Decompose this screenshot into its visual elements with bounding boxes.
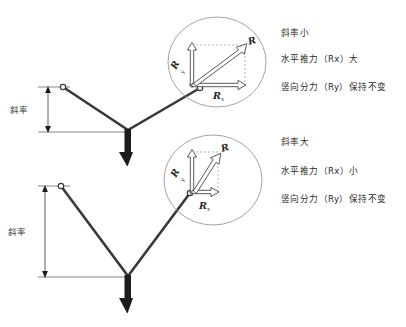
- vector-sub-rx-steep: x: [207, 206, 211, 212]
- cable-shallow: [63, 87, 200, 130]
- dimension-label-shallow: 斜率: [10, 105, 27, 115]
- cable-force-diagram: 斜率 R y R x R: [0, 0, 406, 327]
- load-arrow-steep: [119, 275, 133, 313]
- load-arrow-shallow: [119, 129, 133, 166]
- vector-sub-ry-steep: y: [178, 176, 187, 184]
- hinge-left-shallow: [60, 84, 65, 89]
- annotation-shallow-0: 斜率小: [281, 27, 309, 38]
- vector-r-shallow: [193, 44, 247, 86]
- vector-label-r-shallow: R: [246, 34, 258, 47]
- panel-steep: 斜率: [8, 183, 193, 313]
- dimension-arrow-steep: [42, 185, 48, 278]
- annotation-steep-0: 斜率大: [281, 136, 309, 147]
- panel-shallow: 斜率: [10, 84, 203, 166]
- hinge-left-steep: [58, 183, 63, 188]
- callout-shallow: R y R x R: [168, 17, 266, 107]
- vector-label-rx-shallow: R: [212, 90, 221, 101]
- dimension-arrow-shallow: [45, 86, 51, 133]
- vector-r-steep: [193, 153, 220, 193]
- vector-sub-ry-shallow: y: [178, 68, 187, 76]
- annotations-shallow: 斜率小 水平推力（Rx）大 竖向分力（Ry）保持不变: [281, 27, 386, 92]
- cable-steep: [61, 186, 190, 276]
- vector-label-r-steep: R: [219, 141, 231, 154]
- figure-root: 斜率 R y R x R: [0, 0, 406, 327]
- annotations-steep: 斜率大 水平推力（Rx）小 竖向分力（Ry）保持不变: [281, 136, 386, 204]
- annotation-steep-1: 水平推力（Rx）小: [281, 165, 359, 176]
- annotation-steep-2: 竖向分力（Ry）保持不变: [281, 193, 386, 204]
- vector-ry-shallow: [187, 43, 196, 86]
- annotation-shallow-2: 竖向分力（Ry）保持不变: [281, 81, 386, 92]
- dimension-label-steep: 斜率: [8, 227, 25, 237]
- vector-label-rx-steep: R: [198, 200, 207, 211]
- vector-ry-steep: [187, 150, 196, 193]
- vector-sub-rx-shallow: x: [221, 96, 225, 102]
- callout-steep: R y R x R: [164, 135, 262, 225]
- annotation-shallow-1: 水平推力（Rx）大: [281, 53, 359, 64]
